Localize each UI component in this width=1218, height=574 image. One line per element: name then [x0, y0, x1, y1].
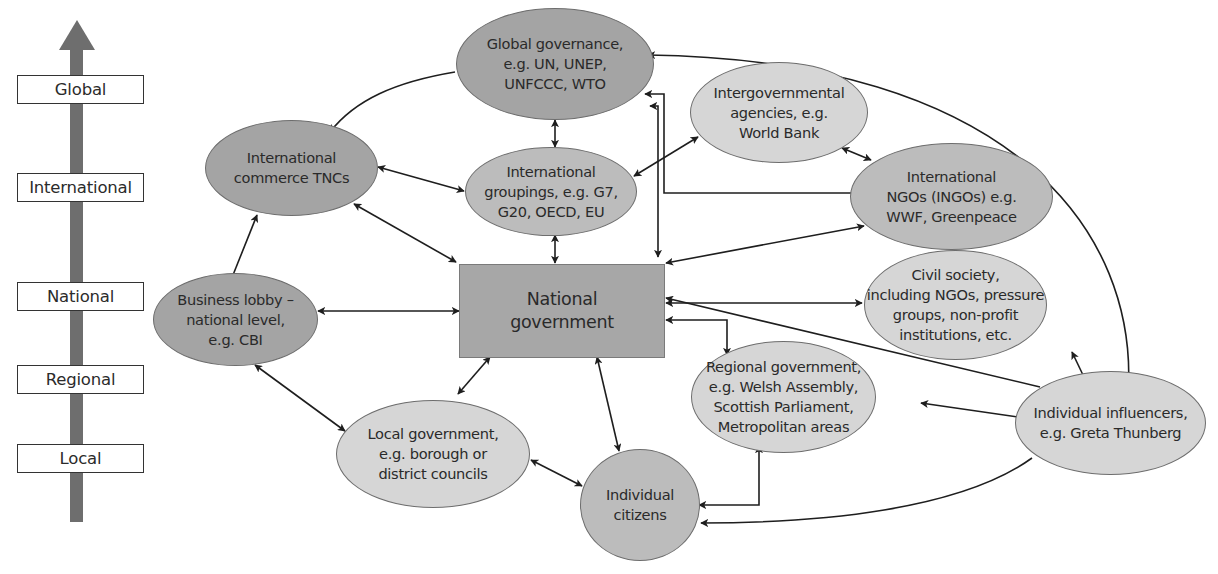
node-international-groupings: International groupings, e.g. G7, G20, O… [465, 147, 637, 236]
node-regional-government: Regional government, e.g. Welsh Assembly… [691, 341, 876, 453]
node-label: International commerce TNCs [234, 148, 349, 188]
node-ingos: International NGOs (INGOs) e.g. WWF, Gre… [850, 143, 1053, 250]
node-label: International NGOs (INGOs) e.g. WWF, Gre… [886, 167, 1016, 227]
edge-global-to-commerce [330, 72, 455, 132]
node-label: Global governance, e.g. UN, UNEP, UNFCCC… [487, 34, 623, 94]
node-business-lobby: Business lobby – national level, e.g. CB… [153, 273, 318, 366]
edge-local-citizens [531, 460, 582, 486]
node-international-commerce: International commerce TNCs [205, 120, 378, 216]
governance-diagram: Global International National Regional L… [0, 0, 1218, 574]
edge-commerce-national [354, 204, 456, 262]
node-label: Intergovernmental agencies, e.g. World B… [714, 83, 845, 143]
node-global-governance: Global governance, e.g. UN, UNEP, UNFCCC… [456, 8, 654, 120]
edge-regional-citizens [699, 446, 759, 505]
edge-influencers-to-regional [921, 403, 1018, 417]
edge-business-to-commerce [233, 215, 257, 275]
node-label: International groupings, e.g. G7, G20, O… [484, 162, 618, 222]
edge-national-citizens [597, 357, 619, 451]
node-individual-citizens: Individual citizens [580, 449, 700, 561]
edge-global-national [650, 106, 658, 257]
edge-national-local [458, 357, 490, 394]
edge-national-regional [666, 320, 727, 355]
node-label: National government [510, 288, 614, 334]
node-label: Individual citizens [606, 485, 674, 525]
node-local-government: Local government, e.g. borough or distri… [336, 400, 530, 508]
node-label: Civil society, including NGOs, pressure … [867, 265, 1045, 345]
edge-ingos-national [666, 226, 864, 263]
node-label: Individual influencers, e.g. Greta Thunb… [1033, 403, 1187, 443]
node-civil-society: Civil society, including NGOs, pressure … [864, 250, 1047, 360]
node-label: Business lobby – national level, e.g. CB… [177, 290, 293, 350]
node-individual-influencers: Individual influencers, e.g. Greta Thunb… [1015, 371, 1206, 475]
edge-intergov-ingos [842, 148, 871, 160]
edge-groupings-intergov [634, 137, 698, 176]
edge-business-local [255, 365, 345, 431]
node-national-government: National government [459, 264, 665, 358]
edge-influencers-to-citizens [701, 458, 1032, 523]
node-label: Local government, e.g. borough or distri… [368, 424, 499, 484]
edge-commerce-groupings [378, 167, 464, 191]
node-label: Regional government, e.g. Welsh Assembly… [706, 357, 861, 437]
node-intergovernmental-agencies: Intergovernmental agencies, e.g. World B… [690, 62, 868, 163]
